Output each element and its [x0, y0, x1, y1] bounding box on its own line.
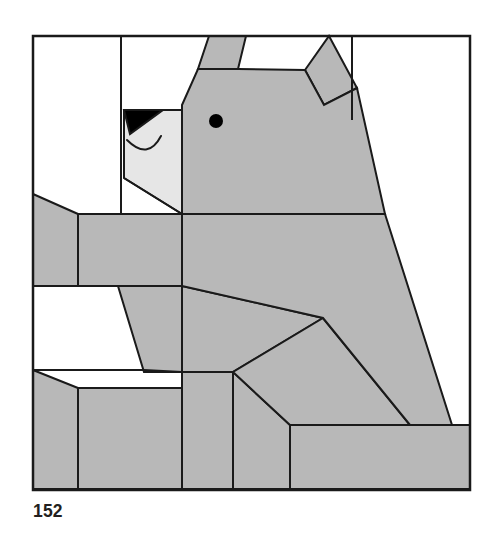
shape-left-shoulder-slab	[78, 214, 182, 286]
shape-rear-foot	[290, 425, 470, 489]
shape-head	[182, 69, 385, 214]
shape-leg-column-middle	[182, 372, 233, 489]
geometric-bear-illustration	[0, 0, 500, 500]
figure-number-caption: 152	[33, 503, 63, 521]
shape-foot-front-right	[78, 388, 182, 489]
bear-figure-container	[0, 0, 500, 500]
eye-icon	[209, 114, 223, 128]
page-root: 152	[0, 0, 500, 537]
shape-foot-front-left	[33, 370, 78, 489]
